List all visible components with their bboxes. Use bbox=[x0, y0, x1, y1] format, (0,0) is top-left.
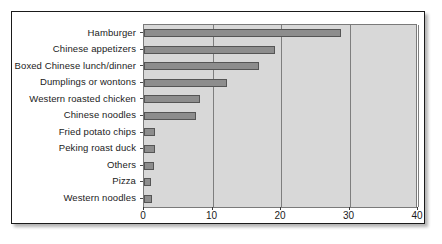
bar-row bbox=[144, 75, 416, 92]
bar bbox=[144, 128, 155, 136]
bar-row bbox=[144, 141, 416, 158]
y-axis-label: Others bbox=[12, 156, 140, 173]
y-axis-label-text: Peking roast duck bbox=[59, 143, 136, 153]
bar bbox=[144, 46, 275, 54]
bar bbox=[144, 95, 200, 103]
x-axis-tick-label: 10 bbox=[206, 211, 217, 221]
x-axis-tick-label: 30 bbox=[343, 211, 354, 221]
y-axis-label-text: Pizza bbox=[112, 176, 136, 186]
y-axis-label: Hamburger bbox=[12, 24, 140, 41]
y-axis-label: Chinese appetizers bbox=[12, 41, 140, 58]
x-axis-tick-label: 40 bbox=[411, 211, 422, 221]
bar bbox=[144, 79, 227, 87]
bar-row bbox=[144, 42, 416, 59]
bar bbox=[144, 145, 155, 153]
bar bbox=[144, 112, 196, 120]
y-axis-label: Dumplings or wontons bbox=[12, 74, 140, 91]
x-axis: 010203040 bbox=[143, 207, 417, 225]
bar-row bbox=[144, 25, 416, 42]
chart-figure: HamburgerChinese appetizersBoxed Chinese… bbox=[11, 11, 425, 224]
y-axis-label-text: Western noodles bbox=[63, 193, 136, 203]
bar bbox=[144, 162, 154, 170]
bar bbox=[144, 195, 152, 203]
y-axis-label: Western noodles bbox=[12, 189, 140, 206]
y-axis-category-labels: HamburgerChinese appetizersBoxed Chinese… bbox=[12, 24, 140, 206]
y-axis-label: Chinese noodles bbox=[12, 107, 140, 124]
y-axis-label-text: Boxed Chinese lunch/dinner bbox=[15, 61, 136, 71]
y-axis-label-text: Others bbox=[107, 160, 136, 170]
bar bbox=[144, 62, 259, 70]
bar-row bbox=[144, 58, 416, 75]
gridline-40 bbox=[418, 25, 419, 207]
bar-row bbox=[144, 174, 416, 191]
y-axis-label: Western roasted chicken bbox=[12, 90, 140, 107]
y-axis-label-text: Western roasted chicken bbox=[29, 94, 136, 104]
y-axis-label: Peking roast duck bbox=[12, 140, 140, 157]
bar bbox=[144, 29, 341, 37]
bar-row bbox=[144, 157, 416, 174]
y-axis-label-text: Chinese appetizers bbox=[53, 44, 136, 54]
x-axis-tick-label: 0 bbox=[140, 211, 146, 221]
y-axis-label-text: Hamburger bbox=[88, 28, 136, 38]
bar-row bbox=[144, 91, 416, 108]
bar-row bbox=[144, 108, 416, 125]
bar-series bbox=[144, 25, 416, 207]
y-axis-label: Fried potato chips bbox=[12, 123, 140, 140]
plot-area bbox=[143, 24, 417, 208]
y-axis-label-text: Dumplings or wontons bbox=[40, 77, 136, 87]
bar-row bbox=[144, 190, 416, 207]
x-axis-tick-label: 20 bbox=[274, 211, 285, 221]
bar bbox=[144, 178, 151, 186]
y-axis-label-text: Chinese noodles bbox=[64, 110, 136, 120]
y-axis-label: Pizza bbox=[12, 173, 140, 190]
y-axis-label-text: Fried potato chips bbox=[59, 127, 136, 137]
bar-row bbox=[144, 124, 416, 141]
y-axis-label: Boxed Chinese lunch/dinner bbox=[12, 57, 140, 74]
